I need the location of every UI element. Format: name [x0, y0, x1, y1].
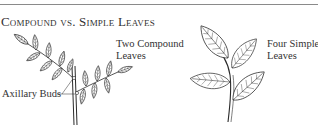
- leaf-illustrations: [0, 0, 318, 125]
- axillary-bud-lower: [75, 91, 78, 94]
- compound-label-line2: Leaves: [116, 50, 146, 62]
- simple-leaves-illustration: [189, 21, 269, 122]
- simple-label-line1: Four Simple: [267, 38, 318, 50]
- simple-label-line2: Leaves: [267, 50, 297, 62]
- axillary-bud-upper: [72, 76, 75, 79]
- axillary-buds-label: Axillary Buds: [2, 88, 61, 100]
- compound-label-line1: Two Compound: [116, 38, 184, 50]
